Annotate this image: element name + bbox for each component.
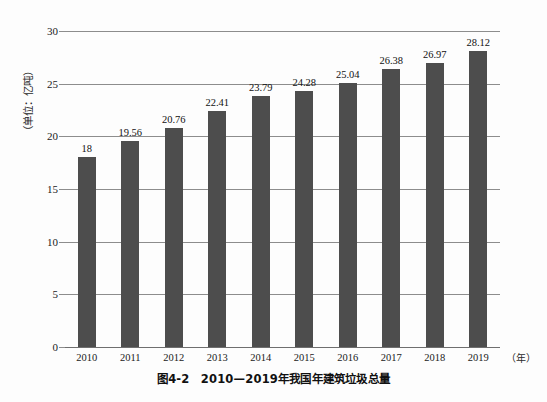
y-axis-title: （单位：亿吨）: [20, 0, 36, 136]
bar-value-label-2012: 20.76: [162, 114, 186, 125]
figure-container: （单位：亿吨） 051015202530 18201019.56201120.7…: [0, 0, 547, 402]
bar-value-label-2013: 22.41: [205, 97, 229, 108]
x-tick-label-2013: 2013: [207, 352, 228, 363]
bar-2014: 23.792014: [252, 96, 270, 347]
bar-2019: 28.122019: [469, 51, 487, 347]
bar-2013: 22.412013: [208, 111, 226, 347]
y-tick-label-5: 5: [53, 288, 59, 300]
bar-value-label-2015: 24.28: [292, 77, 316, 88]
bar-value-label-2018: 26.97: [423, 49, 447, 60]
bar-value-label-2014: 23.79: [249, 82, 273, 93]
y-tick-mark-15: [59, 189, 65, 190]
y-tick-mark-20: [59, 136, 65, 137]
bar-value-label-2019: 28.12: [466, 37, 490, 48]
bar-2011: 19.562011: [121, 141, 139, 347]
y-tick-label-20: 20: [47, 130, 58, 142]
plot-area: 051015202530 18201019.56201120.76201222.…: [65, 31, 500, 347]
x-tick-label-2019: 2019: [468, 352, 489, 363]
x-axis-unit-label: （年）: [506, 350, 536, 365]
x-tick-label-2015: 2015: [294, 352, 315, 363]
y-tick-mark-5: [59, 294, 65, 295]
x-tick-label-2012: 2012: [163, 352, 184, 363]
bar-value-label-2017: 26.38: [379, 55, 403, 66]
y-tick-mark-0: [59, 347, 65, 348]
bar-2015: 24.282015: [295, 91, 313, 347]
y-tick-mark-10: [59, 242, 65, 243]
gridline-y-30: [65, 31, 500, 32]
y-tick-label-25: 25: [47, 78, 58, 90]
x-tick-label-2018: 2018: [424, 352, 445, 363]
bar-2016: 25.042016: [339, 83, 357, 347]
x-tick-label-2010: 2010: [76, 352, 97, 363]
x-tick-label-2014: 2014: [250, 352, 271, 363]
y-tick-mark-25: [59, 84, 65, 85]
y-tick-label-15: 15: [47, 183, 58, 195]
x-tick-label-2017: 2017: [381, 352, 402, 363]
x-tick-label-2011: 2011: [120, 352, 141, 363]
bar-value-label-2010: 18: [82, 143, 93, 154]
bar-value-label-2016: 25.04: [336, 69, 360, 80]
gridline-y-0: [65, 347, 500, 348]
y-tick-label-30: 30: [47, 25, 58, 37]
y-tick-label-0: 0: [53, 341, 59, 353]
bar-2018: 26.972018: [426, 63, 444, 347]
bar-value-label-2011: 19.56: [118, 127, 142, 138]
bar-2012: 20.762012: [165, 128, 183, 347]
x-tick-label-2016: 2016: [337, 352, 358, 363]
bar-2010: 182010: [78, 157, 96, 347]
bar-2017: 26.382017: [382, 69, 400, 347]
figure-caption: 图4-2 2010—2019年我国年建筑垃圾总量: [0, 370, 547, 386]
y-tick-label-10: 10: [47, 236, 58, 248]
y-tick-mark-30: [59, 31, 65, 32]
